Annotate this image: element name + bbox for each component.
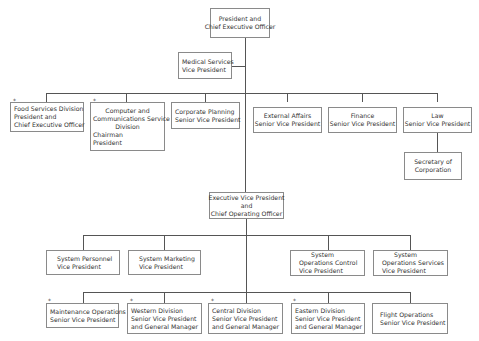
box-line: and	[241, 202, 253, 210]
row1-drop-planning	[205, 93, 206, 102]
box-line: Senior Vice President	[212, 315, 279, 323]
box-line: System Personnel	[57, 255, 116, 263]
flight-operations-box: Flight Operations Senior Vice President	[372, 303, 448, 334]
box-line: Vice President	[57, 263, 116, 271]
row1-drop-finance	[362, 93, 363, 102]
food-services-box: Food Services Division President and Chi…	[10, 102, 84, 132]
evp-box: Executive Vice President and Chief Opera…	[209, 192, 284, 219]
trunk-line-bottom	[246, 218, 247, 303]
system-marketing-box: System Marketing Vice President	[128, 250, 201, 275]
row4-drop-4	[328, 292, 329, 303]
box-line: Maintenance Operations	[50, 308, 115, 316]
central-division-box: Central Division Senior Vice President a…	[208, 303, 283, 334]
box-line: President and	[14, 113, 80, 121]
row4-drop-1	[83, 292, 84, 303]
box-line: Law	[431, 112, 443, 120]
box-line: Communications Service	[93, 115, 162, 123]
box-line: External Affairs	[264, 112, 311, 120]
box-line: and General Manager	[131, 323, 198, 331]
box-line: Vice President	[139, 263, 197, 271]
box-line: President	[93, 139, 162, 147]
row3-drop-3	[328, 235, 329, 250]
box-line: and General Manager	[212, 323, 279, 331]
corporate-planning-box: Corporate Planning Senior Vice President	[171, 102, 240, 129]
box-line: System	[382, 251, 444, 259]
box-line: Senior Vice President	[405, 120, 471, 128]
box-line: System Marketing	[139, 255, 197, 263]
box-line: Finance	[351, 112, 375, 120]
medical-line: Vice President	[182, 66, 228, 74]
box-line: Senior Vice President	[380, 319, 444, 327]
box-line: Corporation	[415, 166, 452, 174]
row3-drop-4	[410, 235, 411, 250]
system-operations-services-box: System Operations Services Vice Presiden…	[373, 250, 448, 276]
secretary-box: Secretary of Corporation	[404, 152, 462, 180]
ceo-line: Chief Executive Officer	[205, 23, 276, 31]
box-line: Senior Vice President	[330, 120, 396, 128]
box-line: Central Division	[212, 307, 279, 315]
medical-connector	[232, 66, 245, 67]
medical-services-box: Medical Services Vice President	[178, 52, 232, 79]
box-line: and General Manager	[295, 323, 361, 331]
row3-drop-1	[83, 235, 84, 250]
box-line: Secretary of	[414, 158, 452, 166]
box-line: Computer and	[93, 107, 162, 115]
box-line: System	[299, 251, 361, 259]
system-personnel-box: System Personnel Vice President	[46, 250, 120, 275]
trunk-line-top	[245, 38, 246, 192]
row1-bar-ext	[246, 93, 438, 94]
row4-drop-2	[164, 292, 165, 303]
computer-communications-box: Computer and Communications Service Divi…	[90, 102, 165, 151]
box-line: Senior Vice President	[255, 120, 321, 128]
box-line: Western Division	[131, 307, 198, 315]
box-line: Chairman	[93, 131, 162, 139]
row1-drop-external	[287, 93, 288, 102]
box-line: Vice President	[382, 267, 444, 275]
row1-drop-computer	[126, 93, 127, 102]
box-line: Division	[93, 123, 162, 131]
row1-drop-law	[437, 93, 438, 102]
box-line: Vice President	[299, 267, 361, 275]
external-affairs-box: External Affairs Senior Vice President	[253, 107, 322, 133]
ceo-line: President and	[219, 15, 261, 23]
box-line: Operations Control	[299, 259, 361, 267]
western-division-box: Western Division Senior Vice President a…	[127, 303, 202, 334]
medical-line: Medical Services	[182, 58, 228, 66]
box-line: Chief Executive Officer	[14, 121, 80, 129]
finance-box: Finance Senior Vice President	[328, 107, 397, 133]
box-line: Senior Vice President	[50, 316, 115, 324]
box-line: Senior Vice President	[175, 116, 236, 124]
ceo-box: President and Chief Executive Officer	[210, 8, 270, 38]
system-operations-control-box: System Operations Control Vice President	[290, 250, 365, 276]
box-line: Operations Services	[382, 259, 444, 267]
box-line: Chief Operating Officer	[211, 210, 282, 218]
maintenance-operations-box: Maintenance Operations Senior Vice Presi…	[46, 303, 119, 328]
box-line: Eastern Division	[295, 307, 361, 315]
row3-bar	[83, 235, 411, 236]
box-line: Food Services Division	[14, 105, 80, 113]
row4-drop-5	[410, 292, 411, 303]
box-line: Senior Vice President	[295, 315, 361, 323]
row3-drop-2	[164, 235, 165, 250]
row4-bar	[83, 292, 411, 293]
box-line: Executive Vice President	[209, 194, 285, 202]
row1-drop-food	[46, 93, 47, 102]
law-box: Law Senior Vice President	[403, 107, 472, 133]
eastern-division-box: Eastern Division Senior Vice President a…	[291, 303, 365, 334]
box-line: Flight Operations	[380, 311, 444, 319]
box-line: Corporate Planning	[175, 108, 236, 116]
box-line: Senior Vice President	[131, 315, 198, 323]
